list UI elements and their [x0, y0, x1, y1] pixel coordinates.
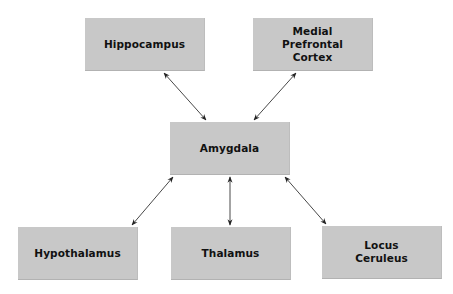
arrow-amygdala-locus-ceruleus — [285, 177, 326, 224]
node-hippocampus: Hippocampus — [85, 18, 205, 71]
node-hypothalamus: Hypothalamus — [18, 227, 138, 280]
node-label: Hippocampus — [104, 38, 185, 51]
node-thalamus: Thalamus — [171, 227, 291, 280]
node-label: Thalamus — [202, 247, 260, 260]
node-medial-prefrontal-cortex: Medial Prefrontal Cortex — [253, 18, 373, 71]
node-locus-ceruleus: Locus Ceruleus — [322, 226, 442, 279]
node-label: Medial Prefrontal Cortex — [282, 25, 343, 64]
node-label: Hypothalamus — [34, 247, 121, 260]
arrow-mpfc-amygdala — [254, 73, 296, 120]
node-amygdala: Amygdala — [170, 122, 290, 175]
arrow-hippocampus-amygdala — [164, 73, 206, 120]
arrow-amygdala-hypothalamus — [132, 177, 173, 225]
node-label: Locus Ceruleus — [355, 239, 408, 265]
node-label: Amygdala — [200, 142, 260, 155]
